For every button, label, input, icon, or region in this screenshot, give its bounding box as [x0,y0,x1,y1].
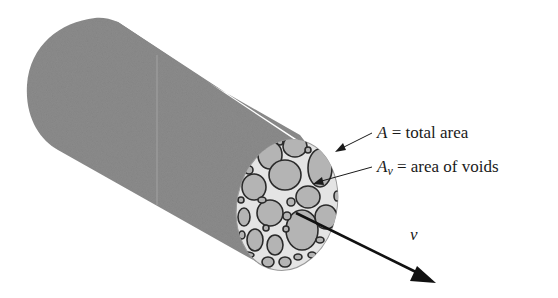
total-area-symbol: A [377,123,387,142]
total-area-label: A = total area [377,124,468,141]
void-area-text: = area of voids [393,157,499,176]
porous-cylinder-diagram [0,0,558,298]
velocity-label: v [410,226,418,243]
total-area-text: = total area [387,123,468,142]
void-area-label: Av = area of voids [377,158,499,177]
void-area-symbol: A [377,157,387,176]
velocity-symbol: v [410,225,418,244]
total-area-pointer [335,133,372,152]
